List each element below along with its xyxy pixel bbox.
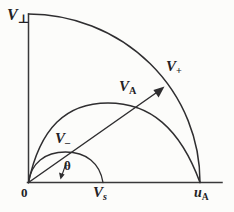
- label-v-s-subscript: s: [103, 191, 107, 202]
- label-u-a-subscript: A: [202, 192, 209, 202]
- resultant-ray-arrowhead: [153, 87, 164, 98]
- label-v-perpendicular: V⊥: [7, 7, 30, 25]
- theta-pointer-arrowhead: [59, 173, 65, 180]
- label-v-perpendicular-subscript: ⊥: [18, 12, 30, 26]
- label-v-a: VA: [119, 79, 136, 96]
- label-u-a-base: u: [194, 185, 202, 200]
- label-v-a-base: V: [119, 78, 129, 94]
- label-v-minus-subscript: –: [65, 137, 70, 148]
- label-v-s-base: V: [93, 184, 103, 200]
- label-u-a: uA: [194, 186, 209, 202]
- label-origin: 0: [21, 186, 28, 199]
- label-v-plus: V+: [166, 59, 182, 76]
- label-v-plus-base: V: [166, 58, 176, 74]
- outer-arc-curve: [29, 14, 201, 183]
- label-v-plus-subscript: +: [176, 65, 182, 76]
- label-theta: θ: [64, 159, 71, 172]
- label-v-a-subscript: A: [129, 85, 136, 96]
- label-v-s: Vs: [93, 185, 107, 202]
- label-v-minus: V–: [55, 131, 70, 148]
- diagram-canvas: [0, 0, 234, 212]
- velocity-vector-diagram: V⊥ V+ VA V– θ 0 Vs uA: [0, 0, 234, 212]
- label-v-perpendicular-base: V: [7, 6, 18, 23]
- label-v-minus-base: V: [55, 130, 65, 146]
